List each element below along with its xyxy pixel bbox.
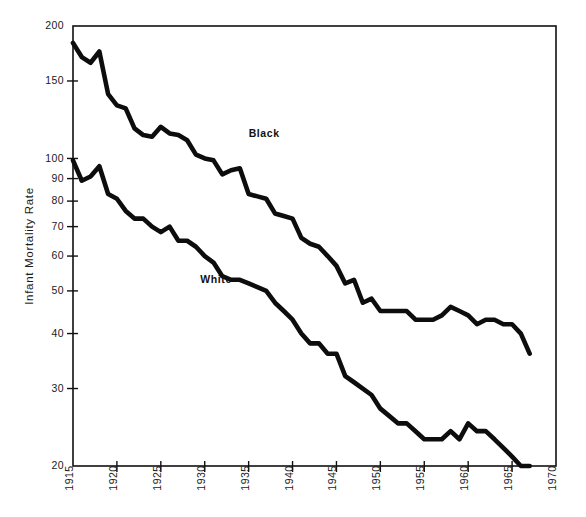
x-tick-label: 1945 xyxy=(326,465,338,490)
y-axis-title: Infant Mortality Rate xyxy=(23,187,35,305)
series-label-white: White xyxy=(200,273,232,285)
y-tick-label: 200 xyxy=(45,19,64,31)
y-tick-label: 150 xyxy=(45,74,64,86)
x-tick-label: 1930 xyxy=(195,465,207,490)
x-tick-label: 1940 xyxy=(283,465,295,490)
y-tick-label: 100 xyxy=(45,152,64,164)
y-tick-label: 90 xyxy=(52,172,64,184)
x-tick-label: 1935 xyxy=(239,465,251,490)
data-series-group xyxy=(73,43,530,466)
x-tick-label: 1920 xyxy=(107,465,119,490)
y-tick-label: 40 xyxy=(52,327,64,339)
y-tick-label: 80 xyxy=(52,194,64,206)
x-tick-label: 1970 xyxy=(546,465,558,490)
series-label-black: Black xyxy=(249,127,280,139)
x-tick-label: 1915 xyxy=(63,465,75,490)
y-tick-label: 70 xyxy=(52,220,64,232)
infant-mortality-line-chart: 2030405060708090100150200 19151920192519… xyxy=(0,0,586,517)
x-tick-label: 1955 xyxy=(414,465,426,490)
x-tick-label: 1950 xyxy=(370,465,382,490)
series-line-black xyxy=(73,43,530,354)
y-tick-label: 50 xyxy=(52,284,64,296)
y-tick-label: 30 xyxy=(52,382,64,394)
x-tick-label: 1925 xyxy=(151,465,163,490)
y-tick-label: 60 xyxy=(52,249,64,261)
x-tick-label: 1960 xyxy=(458,465,470,490)
chart-figure: 2030405060708090100150200 19151920192519… xyxy=(0,0,586,517)
x-tick-label: 1965 xyxy=(502,465,514,490)
